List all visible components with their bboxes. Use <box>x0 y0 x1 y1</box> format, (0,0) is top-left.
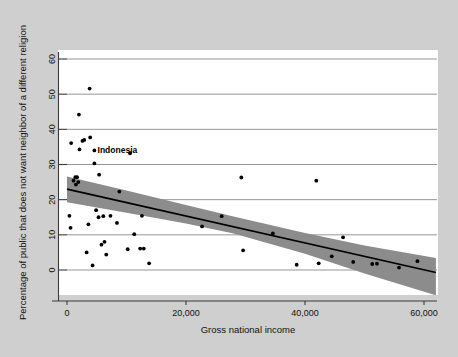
x-tick-label: 40,000 <box>291 308 319 318</box>
data-point <box>104 253 108 257</box>
data-point <box>239 176 243 180</box>
y-tick-label: 60 <box>47 54 57 64</box>
data-point <box>397 266 401 270</box>
data-point <box>77 113 81 117</box>
x-tick-label: 20,000 <box>172 308 200 318</box>
data-point <box>220 214 224 218</box>
data-point <box>142 247 146 251</box>
y-tick-label: 30 <box>47 159 57 169</box>
data-point <box>314 179 318 183</box>
data-point <box>76 180 80 184</box>
data-point <box>140 214 144 218</box>
data-point <box>88 87 92 91</box>
data-point <box>67 214 71 218</box>
y-axis-title: Percentage of public that does not want … <box>17 25 28 320</box>
x-tick-label: 60,000 <box>410 308 438 318</box>
data-point <box>88 136 92 140</box>
data-point <box>341 235 345 239</box>
data-point <box>330 254 334 258</box>
data-point <box>87 222 91 226</box>
data-point <box>370 262 374 266</box>
data-point <box>97 173 101 177</box>
y-tick-label: 10 <box>47 230 57 240</box>
data-point <box>92 162 96 166</box>
point-annotations: Indonesia <box>92 145 137 155</box>
data-point <box>101 214 105 218</box>
data-point <box>126 247 130 251</box>
data-point <box>85 251 89 255</box>
data-point <box>271 232 275 236</box>
y-tick-label: 50 <box>47 89 57 99</box>
data-point <box>138 247 142 251</box>
x-tick-label: 0 <box>64 308 69 318</box>
data-point <box>416 259 420 263</box>
data-point <box>241 248 245 252</box>
data-point <box>351 260 355 264</box>
annotated-data-point <box>92 149 96 153</box>
data-point <box>72 179 76 183</box>
figure-container: Indonesia 020,00040,00060,000 0102030405… <box>0 0 458 357</box>
data-point <box>78 147 82 151</box>
data-point <box>375 262 379 266</box>
data-point <box>295 263 299 267</box>
data-point <box>132 232 136 236</box>
point-label-indonesia: Indonesia <box>98 145 138 155</box>
data-point <box>115 221 119 225</box>
y-tick-label: 40 <box>47 124 57 134</box>
data-point <box>200 224 204 228</box>
data-point <box>75 175 79 179</box>
data-point <box>97 215 101 219</box>
data-point <box>103 240 107 244</box>
x-axis-title: Gross national income <box>201 324 296 335</box>
y-tick-label: 0 <box>47 267 57 272</box>
scatter-plot: Indonesia 020,00040,00060,000 0102030405… <box>0 0 458 357</box>
data-point <box>91 264 95 268</box>
data-point <box>82 138 86 142</box>
data-point <box>117 190 121 194</box>
data-point <box>100 243 104 247</box>
data-point <box>94 208 98 212</box>
data-point <box>147 261 151 265</box>
data-point <box>109 214 113 218</box>
x-axis-ticks: 020,00040,00060,000 <box>64 301 437 318</box>
data-point <box>317 261 321 265</box>
data-point <box>69 226 73 230</box>
y-tick-label: 20 <box>47 195 57 205</box>
data-point <box>69 141 73 145</box>
